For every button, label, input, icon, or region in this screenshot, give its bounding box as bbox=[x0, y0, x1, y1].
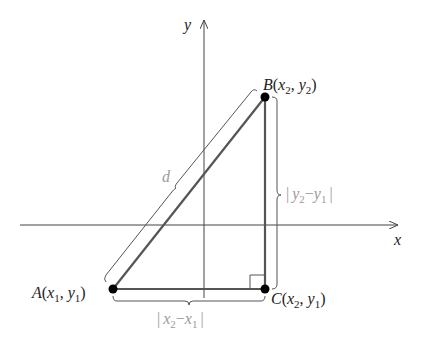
hypotenuse-brace bbox=[105, 90, 258, 282]
point-A-label: A(x1, y1) bbox=[31, 284, 86, 304]
horizontal-difference-label: |x2−x1| bbox=[157, 310, 204, 330]
x-axis-label: x bbox=[393, 231, 401, 248]
distance-diagram: y x B(x2, y2) A(x1, y1) C(x2, y1) d |y2−… bbox=[0, 0, 425, 354]
vertical-difference-label: |y2−y1| bbox=[286, 185, 333, 205]
hypotenuse-AB bbox=[113, 97, 265, 289]
point-A bbox=[109, 285, 118, 294]
y-axis-label: y bbox=[182, 16, 192, 34]
point-C-label: C(x2, y1) bbox=[271, 290, 326, 310]
point-B bbox=[261, 93, 270, 102]
distance-d-label: d bbox=[162, 168, 171, 185]
horizontal-brace bbox=[113, 296, 265, 305]
point-B-label: B(x2, y2) bbox=[263, 76, 317, 96]
vertical-brace bbox=[272, 97, 281, 289]
point-C bbox=[261, 285, 270, 294]
